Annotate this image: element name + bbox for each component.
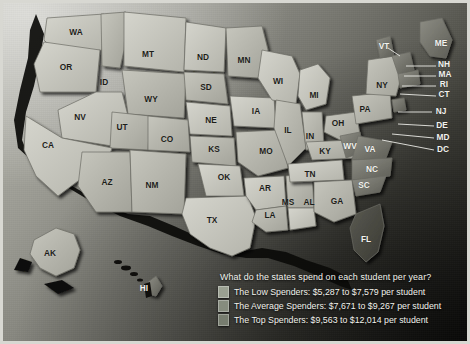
state-label-de: DE: [436, 120, 448, 130]
legend-swatch: [218, 314, 229, 326]
state-label-ak: AK: [44, 248, 56, 258]
state-label-ma: MA: [439, 69, 452, 79]
state-label-id: ID: [100, 77, 108, 87]
legend-rows: The Low Spenders: $5,287 to $7,579 per s…: [218, 286, 464, 326]
state-label-wy: WY: [144, 94, 158, 104]
state-label-mt: MT: [142, 49, 154, 59]
state-label-vt: VT: [379, 41, 390, 51]
state-label-sc: SC: [358, 180, 370, 190]
legend: What do the states spend on each student…: [218, 272, 464, 328]
state-label-or: OR: [60, 62, 72, 72]
state-label-ok: OK: [218, 172, 230, 182]
state-label-al: AL: [303, 197, 314, 207]
state-label-nh: NH: [438, 59, 450, 69]
state-label-pa: PA: [360, 104, 371, 114]
state-label-mi: MI: [309, 90, 318, 100]
state-label-fl: FL: [361, 234, 371, 244]
state-label-ut: UT: [116, 122, 127, 132]
state-label-nc: NC: [366, 164, 378, 174]
state-label-tn: TN: [304, 169, 315, 179]
state-label-la: LA: [264, 210, 275, 220]
state-label-il: IL: [284, 125, 291, 135]
state-label-mo: MO: [259, 146, 273, 156]
state-label-ks: KS: [208, 144, 220, 154]
state-label-sd: SD: [200, 82, 212, 92]
state-label-ar: AR: [259, 183, 271, 193]
state-label-ct: CT: [438, 89, 449, 99]
legend-row: The Low Spenders: $5,287 to $7,579 per s…: [218, 286, 464, 298]
legend-swatch: [218, 300, 229, 312]
state-label-az: AZ: [101, 177, 112, 187]
state-label-oh: OH: [332, 118, 344, 128]
legend-swatch: [218, 286, 229, 298]
state-label-ms: MS: [282, 197, 295, 207]
state-label-dc: DC: [437, 144, 449, 154]
legend-label: The Average Spenders: $7,671 to $9,267 p…: [234, 301, 441, 311]
state-label-nd: ND: [197, 52, 209, 62]
state-label-tx: TX: [207, 215, 218, 225]
state-label-hi: HI: [140, 283, 148, 293]
state-label-nm: NM: [146, 180, 159, 190]
legend-label: The Low Spenders: $5,287 to $7,579 per s…: [234, 287, 425, 297]
state-label-ca: CA: [42, 140, 54, 150]
state-label-in: IN: [306, 131, 314, 141]
state-label-ny: NY: [376, 80, 388, 90]
state-label-ia: IA: [252, 106, 260, 116]
infographic-map: WAORIDMTWYNVUTCAAZNMCONDSDNEKSOKTXMNIAMO…: [0, 0, 470, 344]
state-label-md: MD: [437, 132, 450, 142]
state-label-wi: WI: [273, 76, 283, 86]
state-label-wa: WA: [69, 27, 82, 37]
state-label-ri: RI: [440, 79, 448, 89]
state-label-me: ME: [435, 38, 448, 48]
legend-row: The Average Spenders: $7,671 to $9,267 p…: [218, 300, 464, 312]
state-label-ky: KY: [319, 146, 331, 156]
state-label-ga: GA: [331, 196, 343, 206]
legend-row: The Top Spenders: $9,563 to $12,014 per …: [218, 314, 464, 326]
state-label-va: VA: [365, 144, 376, 154]
state-label-nv: NV: [74, 112, 86, 122]
legend-question: What do the states spend on each student…: [220, 272, 464, 282]
state-label-ne: NE: [205, 115, 217, 125]
state-label-mn: MN: [238, 55, 251, 65]
state-label-wv: WV: [343, 141, 357, 151]
state-label-nj: NJ: [436, 106, 447, 116]
state-label-co: CO: [161, 134, 174, 144]
legend-label: The Top Spenders: $9,563 to $12,014 per …: [234, 315, 428, 325]
